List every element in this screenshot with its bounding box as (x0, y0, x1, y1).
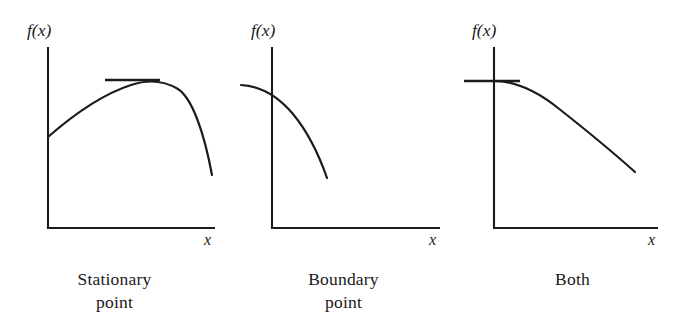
panel-both: f(x) x Both (458, 0, 686, 334)
caption-line-2: point (229, 291, 458, 314)
panel-boundary: f(x) x Boundary point (229, 0, 458, 334)
caption-boundary: Boundary point (229, 268, 458, 315)
y-axis-label: f(x) (251, 22, 275, 40)
panel-stationary: f(x) x Stationary point (0, 0, 229, 334)
x-axis-label: x (648, 232, 655, 248)
x-axis-label: x (429, 232, 436, 248)
y-axis-label: f(x) (472, 22, 496, 40)
caption-stationary: Stationary point (0, 268, 229, 315)
curve-boundary (241, 85, 327, 178)
curve-both (494, 81, 635, 172)
caption-line-1: Boundary (229, 268, 458, 291)
caption-line-2: point (0, 291, 229, 314)
caption-both: Both (458, 268, 686, 291)
figure-root: f(x) x Stationary point f(x) x Boundary … (0, 0, 686, 334)
curve-stationary (48, 82, 212, 175)
caption-line-1: Stationary (0, 268, 229, 291)
caption-line-1: Both (458, 268, 686, 291)
x-axis-label: x (204, 232, 211, 248)
y-axis-label: f(x) (27, 22, 51, 40)
